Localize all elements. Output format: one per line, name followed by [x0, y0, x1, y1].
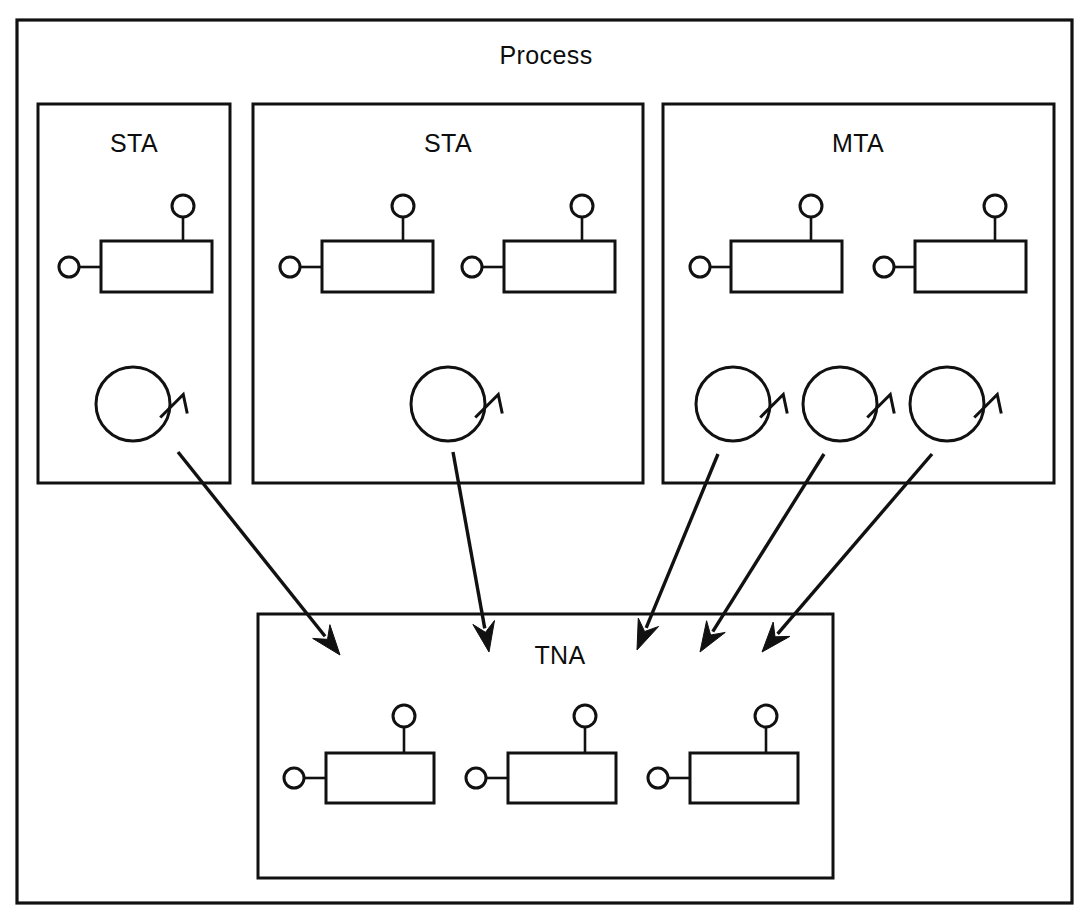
- component-left-port-icon-mta-comp-1: [690, 257, 710, 277]
- thread-circle-icon-sta1-thread-1: [96, 367, 170, 441]
- thread-direction-arrow-mta-thread-2: [867, 394, 894, 417]
- process-architecture-diagram: Process STASTAMTATNA: [0, 0, 1091, 919]
- component-mta-comp-1: [690, 195, 842, 292]
- component-sta1-comp-1: [59, 195, 212, 292]
- thread-circle-icon-mta-thread-2: [803, 367, 877, 441]
- component-top-port-icon-tna-comp-3: [755, 705, 777, 727]
- group-label-sta-1: STA: [110, 129, 158, 157]
- component-top-port-icon-mta-comp-2: [984, 195, 1006, 217]
- group-tna-1: TNA: [258, 614, 833, 878]
- component-top-port-icon-mta-comp-1: [800, 195, 822, 217]
- thread-direction-arrow-mta-thread-1: [760, 394, 787, 417]
- group-label-sta-2: STA: [424, 129, 472, 157]
- component-top-port-icon-tna-comp-1: [393, 705, 415, 727]
- flow-line-flow-sta2-to-tna: [453, 452, 485, 628]
- component-body-tna-comp-3: [690, 753, 798, 803]
- component-left-port-icon-tna-comp-2: [466, 768, 486, 788]
- component-left-port-icon-tna-comp-1: [284, 768, 304, 788]
- component-body-mta-comp-2: [915, 241, 1026, 292]
- diagram-canvas: Process STASTAMTATNA: [0, 0, 1091, 919]
- thread-mta-thread-1: [696, 367, 787, 441]
- flow-line-flow-mta1-to-tna: [646, 454, 718, 628]
- group-sta-2: STA: [253, 104, 643, 483]
- group-label-mta-1: MTA: [832, 129, 884, 157]
- thread-sta2-thread-1: [411, 367, 502, 441]
- thread-circle-icon-mta-thread-1: [696, 367, 770, 441]
- component-left-port-icon-mta-comp-2: [874, 257, 894, 277]
- component-left-port-icon-sta1-comp-1: [59, 257, 79, 277]
- component-left-port-icon-tna-comp-3: [648, 768, 668, 788]
- thread-circle-icon-sta2-thread-1: [411, 367, 485, 441]
- process-title: Process: [499, 41, 592, 69]
- component-top-port-icon-tna-comp-2: [574, 705, 596, 727]
- component-left-port-icon-sta2-comp-1: [280, 257, 300, 277]
- component-body-tna-comp-2: [508, 753, 616, 803]
- component-body-mta-comp-1: [731, 241, 842, 292]
- thread-mta-thread-2: [803, 367, 894, 441]
- component-sta2-comp-1: [280, 195, 433, 292]
- group-mta-1: MTA: [663, 104, 1054, 483]
- thread-direction-arrow-mta-thread-3: [974, 394, 1001, 417]
- group-sta-1: STA: [38, 104, 230, 483]
- component-mta-comp-2: [874, 195, 1026, 292]
- component-body-sta1-comp-1: [101, 241, 212, 292]
- component-body-tna-comp-1: [326, 753, 434, 803]
- flow-arrowhead-flow-mta2-to-tna: [700, 621, 725, 652]
- thread-direction-arrow-sta2-thread-1: [475, 394, 502, 417]
- component-left-port-icon-sta2-comp-2: [462, 257, 482, 277]
- component-tna-comp-1: [284, 705, 434, 803]
- thread-circle-icon-mta-thread-3: [910, 367, 984, 441]
- flow-arrowhead-flow-sta1-to-tna: [313, 625, 340, 655]
- component-tna-comp-3: [648, 705, 798, 803]
- group-label-tna-1: TNA: [534, 641, 585, 669]
- thread-direction-arrow-sta1-thread-1: [160, 394, 187, 417]
- component-top-port-icon-sta2-comp-1: [392, 195, 414, 217]
- component-body-sta2-comp-1: [322, 241, 433, 292]
- component-sta2-comp-2: [462, 195, 615, 292]
- component-body-sta2-comp-2: [504, 241, 615, 292]
- component-top-port-icon-sta1-comp-1: [172, 195, 194, 217]
- thread-mta-thread-3: [910, 367, 1001, 441]
- diagram-content-layer: STASTAMTATNA: [38, 104, 1054, 878]
- flow-line-flow-mta3-to-tna: [778, 454, 932, 634]
- component-top-port-icon-sta2-comp-2: [571, 195, 593, 217]
- flow-line-flow-mta2-to-tna: [713, 454, 824, 632]
- component-tna-comp-2: [466, 705, 616, 803]
- thread-sta1-thread-1: [96, 367, 187, 441]
